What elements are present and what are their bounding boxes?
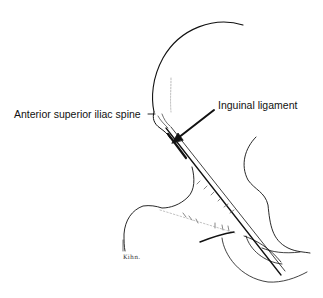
pelvis-illustration xyxy=(0,0,323,298)
femoral-outline xyxy=(124,167,194,251)
acetabulum-outline xyxy=(244,137,310,253)
inferior-fiber-dashes xyxy=(160,210,235,233)
label-inguinal-ligament: Inguinal ligament xyxy=(218,100,297,111)
artist-signature: Kihn. xyxy=(123,253,141,260)
inguinal-ligament-arrow-shaft xyxy=(178,110,214,138)
label-anterior-superior-iliac-spine: Anterior superior iliac spine xyxy=(14,109,141,120)
inguinal-ligament-line-2 xyxy=(171,127,285,271)
asis-detail xyxy=(158,114,170,128)
pubic-tubercle-outline xyxy=(200,232,234,242)
